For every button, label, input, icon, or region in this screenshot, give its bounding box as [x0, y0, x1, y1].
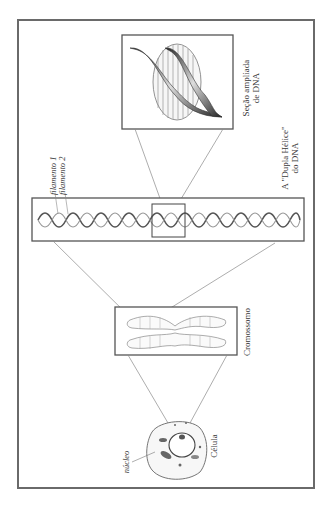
chromosome-panel: [115, 307, 237, 355]
label-line: Célula: [209, 430, 219, 462]
dna-section-label: Seção ampliada de DNA: [241, 54, 261, 122]
label-line: núcleo: [121, 446, 131, 478]
zoom-lines-3: [128, 355, 227, 423]
diagram-artwork: [0, 0, 333, 511]
zoom-lines-1: [135, 129, 223, 204]
strand-label-2: filamento 2: [58, 141, 67, 195]
cell-illustration: [132, 422, 207, 480]
double-helix-panel: [32, 193, 304, 241]
chromosome-label: Cromossomo: [242, 305, 252, 359]
strand-labels: filamento 1 filamento 2: [49, 141, 67, 195]
label-line: Cromossomo: [242, 305, 252, 359]
label-line: Seção ampliada: [241, 54, 251, 122]
nucleus-label: núcleo: [121, 446, 131, 478]
label-line: de DNA: [251, 54, 261, 122]
label-line: A "Dupla Hélice": [280, 122, 290, 194]
label-line: do DNA: [290, 122, 300, 194]
dna-section-panel: [122, 35, 233, 129]
double-helix-label: A "Dupla Hélice" do DNA: [280, 122, 300, 194]
cell-label: Célula: [209, 430, 219, 462]
